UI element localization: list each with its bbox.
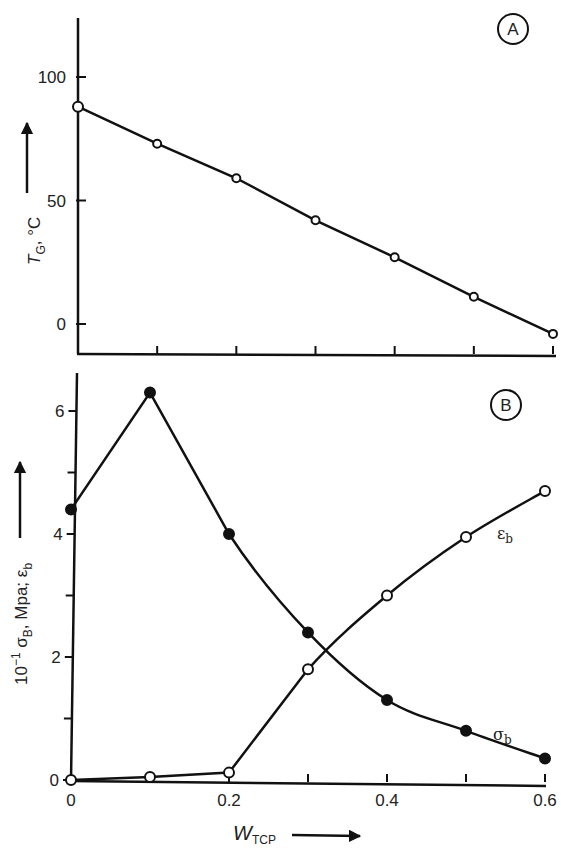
- panel-b-y-label-sigma: σ: [12, 637, 31, 653]
- panel-b-label: B: [491, 390, 521, 420]
- panel-a-y-label-sub: G: [34, 245, 48, 254]
- epsilon-data-point: [461, 532, 471, 542]
- panel-b-y-label-sigma-sub: B: [21, 629, 35, 637]
- epsilon-data-point: [66, 775, 76, 785]
- figure: 050100 A TG, °C 00.20.40.6 0246 σbεb B 1…: [0, 0, 561, 848]
- panel-b-y-label-prefix: 10: [12, 666, 31, 685]
- sigma-series-line: [71, 393, 545, 759]
- panel-b-x-label-main: W: [233, 822, 254, 844]
- panel-b-y-tick-label: 4: [53, 525, 62, 544]
- panel-a-data-point: [549, 330, 557, 338]
- panel-b-y-tick-label: 0: [50, 771, 59, 790]
- epsilon-data-point: [224, 768, 234, 778]
- panel-a-data-point: [391, 253, 399, 261]
- panel-a-x-axis: [77, 354, 556, 356]
- sigma-curve-label: σb: [493, 725, 512, 747]
- panel-b: 00.20.40.6 0246 σbεb B 10−1 σB, Mpa; εb …: [9, 373, 557, 847]
- panel-b-y-label-exp: −1: [9, 652, 23, 666]
- epsilon-data-point: [382, 591, 392, 601]
- panel-b-y-tick-label: 6: [55, 402, 64, 421]
- panel-b-y-label-eps-sub: b: [21, 563, 35, 570]
- epsilon-curve-label: εb: [497, 524, 513, 546]
- svg-text:WTCP: WTCP: [233, 822, 276, 847]
- sigma-data-point: [224, 529, 234, 539]
- sigma-data-point: [382, 695, 392, 705]
- panel-a-label-text: A: [507, 20, 519, 39]
- svg-text:TG, °C: TG, °C: [25, 217, 48, 265]
- panel-b-label-text: B: [500, 396, 511, 415]
- panel-a-y-label-unit: , °C: [25, 217, 44, 246]
- panel-a-y-tick-label: 100: [38, 68, 66, 87]
- panel-a-y-tick-label: 50: [47, 192, 66, 211]
- panel-b-x-label: WTCP: [233, 822, 276, 847]
- panel-a-y-label: TG, °C: [25, 217, 48, 265]
- panel-b-x-arrow-icon: [292, 835, 360, 836]
- panel-a-y-tick-label: 0: [57, 315, 66, 334]
- sigma-data-point: [66, 504, 76, 514]
- panel-a-label: A: [498, 14, 528, 44]
- panel-b-x-tick-label: 0.4: [375, 791, 399, 810]
- panel-b-y-label-mid: , Mpa; ε: [12, 569, 31, 629]
- panel-a-data-point: [153, 140, 161, 148]
- sigma-data-point: [145, 388, 155, 398]
- panel-a-data-point: [312, 216, 320, 224]
- panel-b-x-tick-label: 0: [66, 791, 75, 810]
- epsilon-data-point: [145, 772, 155, 782]
- epsilon-data-point: [540, 486, 550, 496]
- svg-text:10−1 σB, Mpa; εb: 10−1 σB, Mpa; εb: [9, 563, 35, 685]
- panel-b-y-tick-label: 2: [51, 648, 60, 667]
- panel-b-x-label-sub: TCP: [252, 833, 276, 847]
- sigma-data-point: [540, 753, 550, 763]
- sigma-data-point: [303, 627, 313, 637]
- panel-a-data-point: [73, 102, 83, 112]
- panel-a-data-point: [470, 293, 478, 301]
- panel-b-x-tick-label: 0.6: [533, 791, 557, 810]
- panel-b-y-axis: [71, 373, 77, 781]
- panel-b-y-label: 10−1 σB, Mpa; εb: [9, 563, 35, 685]
- sigma-data-point: [461, 726, 471, 736]
- panel-b-x-tick-label: 0.2: [217, 791, 241, 810]
- panel-a: 050100 A TG, °C: [25, 14, 557, 356]
- panel-a-data-point: [232, 174, 240, 182]
- epsilon-data-point: [303, 664, 313, 674]
